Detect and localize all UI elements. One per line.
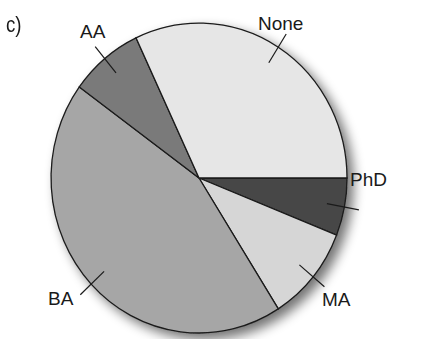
- label-none: None: [258, 13, 303, 34]
- label-phd: PhD: [350, 169, 387, 190]
- label-ba: BA: [48, 288, 74, 309]
- label-aa: AA: [80, 21, 106, 42]
- pie-slices: [51, 23, 347, 333]
- label-ma: MA: [322, 289, 351, 310]
- pie-chart: PhDMABAAANone: [0, 0, 425, 339]
- panel-label: c): [6, 12, 22, 38]
